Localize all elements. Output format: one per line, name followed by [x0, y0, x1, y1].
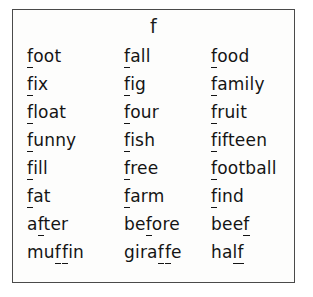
word-item: family	[211, 76, 301, 93]
word-suffix: arm	[130, 186, 164, 206]
word-item: football	[211, 160, 301, 177]
word-item: four	[124, 104, 211, 121]
word-suffix: ter	[44, 214, 69, 234]
underlined-letter: f	[158, 242, 164, 264]
word-item: muffin	[27, 244, 124, 261]
word-item: find	[211, 188, 301, 205]
word-item: half	[211, 244, 301, 261]
word-item: before	[124, 216, 211, 233]
word-item: fifteen	[211, 132, 301, 149]
word-item: funny	[27, 132, 124, 149]
word-item: float	[27, 104, 124, 121]
word-item: fig	[124, 76, 211, 93]
word-item: beef	[211, 216, 301, 233]
word-item: giraffe	[124, 244, 211, 261]
word-suffix: our	[130, 102, 159, 122]
word-item: fix	[27, 76, 124, 93]
word-suffix: oot	[33, 46, 61, 66]
word-prefix: bee	[211, 214, 243, 234]
word-prefix: be	[124, 214, 146, 234]
word-prefix: a	[27, 214, 38, 234]
word-suffix: ruit	[217, 102, 247, 122]
word-prefix: mu	[27, 242, 55, 262]
word-suffix: ill	[33, 158, 48, 178]
word-prefix: ha	[211, 242, 233, 262]
word-item: fish	[124, 132, 211, 149]
word-suffix: in	[68, 242, 84, 262]
word-suffix: ifteen	[217, 130, 267, 150]
word-suffix: ind	[217, 186, 244, 206]
word-suffix: all	[130, 46, 150, 66]
word-suffix: ore	[152, 214, 180, 234]
worksheet-card: f footfallfoodfixfigfamilyfloatfourfruit…	[12, 9, 295, 283]
page-title: f	[13, 10, 294, 36]
word-item: free	[124, 160, 211, 177]
underlined-letter: f	[243, 214, 249, 236]
word-grid: footfallfoodfixfigfamilyfloatfourfruitfu…	[13, 42, 294, 266]
word-prefix: gira	[124, 242, 158, 262]
word-item: fill	[27, 160, 124, 177]
underlined-letter: f	[55, 242, 61, 264]
word-suffix: at	[33, 186, 50, 206]
word-item: foot	[27, 48, 124, 65]
word-suffix: ix	[33, 74, 48, 94]
word-suffix: ood	[217, 46, 249, 66]
word-item: food	[211, 48, 301, 65]
word-suffix: unny	[33, 130, 76, 150]
word-item: fruit	[211, 104, 301, 121]
word-item: fall	[124, 48, 211, 65]
word-item: fat	[27, 188, 124, 205]
underlined-letter: lf	[233, 242, 244, 264]
word-suffix: amily	[217, 74, 264, 94]
word-suffix: e	[171, 242, 182, 262]
word-suffix: ish	[130, 130, 155, 150]
word-item: farm	[124, 188, 211, 205]
word-item: after	[27, 216, 124, 233]
word-suffix: ootball	[217, 158, 277, 178]
word-suffix: loat	[33, 102, 66, 122]
word-suffix: ig	[130, 74, 146, 94]
word-suffix: ree	[130, 158, 158, 178]
